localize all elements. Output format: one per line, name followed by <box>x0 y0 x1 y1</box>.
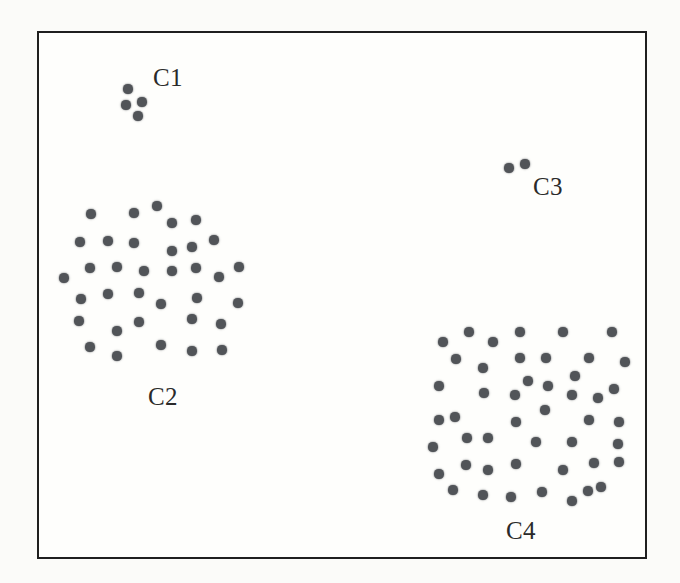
data-point-c1 <box>137 97 146 106</box>
data-point-c2 <box>134 317 143 326</box>
data-point-c2 <box>209 235 218 244</box>
data-point-c1 <box>121 100 130 109</box>
data-point-c2 <box>167 218 176 227</box>
data-point-c2 <box>103 236 112 245</box>
data-point-c2 <box>129 208 138 217</box>
data-point-c4 <box>523 376 532 385</box>
cluster-label-c2: C2 <box>148 384 178 409</box>
data-point-c3 <box>504 163 513 172</box>
data-point-c4 <box>541 353 550 362</box>
data-point-c4 <box>478 363 487 372</box>
data-point-c4 <box>596 482 605 491</box>
data-point-c4 <box>461 460 470 469</box>
data-point-c4 <box>478 490 487 499</box>
data-point-c4 <box>438 337 447 346</box>
data-point-c4 <box>515 353 524 362</box>
data-point-c2 <box>167 246 176 255</box>
plot-border-box <box>37 31 647 559</box>
data-point-c2 <box>234 262 243 271</box>
data-point-c4 <box>531 437 540 446</box>
data-point-c4 <box>620 357 629 366</box>
data-point-c4 <box>464 327 473 336</box>
data-point-c4 <box>614 417 623 426</box>
data-point-c4 <box>483 465 492 474</box>
data-point-c2 <box>191 263 200 272</box>
data-point-c2 <box>167 266 176 275</box>
cluster-label-c3: C3 <box>533 174 563 199</box>
data-point-c4 <box>510 390 519 399</box>
data-point-c4 <box>488 337 497 346</box>
data-point-c2 <box>112 262 121 271</box>
data-point-c4 <box>613 439 622 448</box>
data-point-c4 <box>434 415 443 424</box>
data-point-c4 <box>434 469 443 478</box>
data-point-c4 <box>540 405 549 414</box>
data-point-c2 <box>59 273 68 282</box>
data-point-c4 <box>584 415 593 424</box>
data-point-c4 <box>609 384 618 393</box>
data-point-c2 <box>112 326 121 335</box>
data-point-c4 <box>511 459 520 468</box>
data-point-c2 <box>86 209 95 218</box>
data-point-c2 <box>187 314 196 323</box>
data-point-c2 <box>217 345 226 354</box>
data-point-c4 <box>583 486 592 495</box>
data-point-c2 <box>129 238 138 247</box>
data-point-c2 <box>85 263 94 272</box>
data-point-c2 <box>152 201 161 210</box>
data-point-c4 <box>543 381 552 390</box>
data-point-c4 <box>558 465 567 474</box>
data-point-c2 <box>139 266 148 275</box>
cluster-label-c1: C1 <box>153 65 183 90</box>
data-point-c2 <box>85 342 94 351</box>
data-point-c4 <box>511 417 520 426</box>
data-point-c4 <box>515 327 524 336</box>
data-point-c1 <box>123 84 132 93</box>
data-point-c2 <box>75 237 84 246</box>
cluster-label-c4: C4 <box>506 518 536 543</box>
data-point-c4 <box>570 371 579 380</box>
data-point-c4 <box>567 496 576 505</box>
data-point-c4 <box>479 388 488 397</box>
data-point-c2 <box>76 294 85 303</box>
data-point-c4 <box>483 433 492 442</box>
data-point-c4 <box>558 327 567 336</box>
data-point-c4 <box>537 487 546 496</box>
data-point-c4 <box>584 353 593 362</box>
data-point-c4 <box>428 442 437 451</box>
data-point-c4 <box>567 390 576 399</box>
data-point-c4 <box>462 433 471 442</box>
data-point-c2 <box>216 319 225 328</box>
data-point-c2 <box>233 298 242 307</box>
data-point-c2 <box>156 299 165 308</box>
data-point-c4 <box>450 412 459 421</box>
data-point-c3 <box>520 159 529 168</box>
data-point-c2 <box>134 288 143 297</box>
data-point-c2 <box>191 215 200 224</box>
data-point-c4 <box>593 393 602 402</box>
data-point-c4 <box>614 457 623 466</box>
data-point-c2 <box>214 272 223 281</box>
data-point-c4 <box>451 354 460 363</box>
data-point-c2 <box>112 351 121 360</box>
data-point-c2 <box>192 293 201 302</box>
data-point-c2 <box>103 289 112 298</box>
data-point-c2 <box>187 346 196 355</box>
data-point-c4 <box>607 327 616 336</box>
data-point-c4 <box>506 492 515 501</box>
data-point-c2 <box>187 242 196 251</box>
data-point-c4 <box>448 485 457 494</box>
data-point-c4 <box>567 437 576 446</box>
cluster-scatter-figure: C1C2C3C4 <box>0 0 680 583</box>
data-point-c2 <box>156 340 165 349</box>
data-point-c2 <box>74 316 83 325</box>
data-point-c4 <box>589 458 598 467</box>
data-point-c1 <box>133 111 142 120</box>
data-point-c4 <box>434 381 443 390</box>
